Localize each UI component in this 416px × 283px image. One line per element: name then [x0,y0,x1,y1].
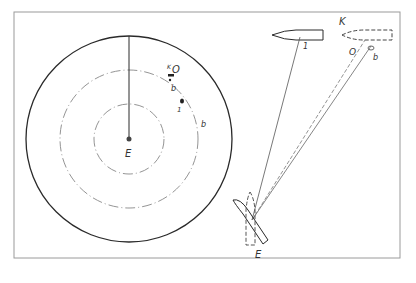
ray-to-ship-1 [252,37,300,220]
bearing-b-label: b [373,53,378,62]
echo-1 [180,99,184,104]
ray-to-b [252,46,371,220]
echo-label-one: 1 [177,106,181,114]
ship-k-phantom [342,30,392,40]
geometry-panel: 1 K O b E [233,16,392,260]
echo-label-o: O [172,64,180,75]
own-ship-label: E [255,249,262,260]
radar-panel: E K O b 1 b [26,36,232,242]
echo-label-b1: b [171,84,176,93]
ray-to-o [252,40,365,220]
center-label: E [125,148,132,159]
echo-b [169,79,171,81]
ship-1 [272,30,323,40]
echo-label-b2: b [201,120,206,129]
ship-k-label: K [339,16,347,27]
own-ship-actual [233,200,268,244]
diagram-canvas: E K O b 1 b 1 K O b E [0,0,416,283]
own-ship-dot [127,137,132,142]
ship-1-label: 1 [303,42,308,51]
frame [14,12,400,258]
